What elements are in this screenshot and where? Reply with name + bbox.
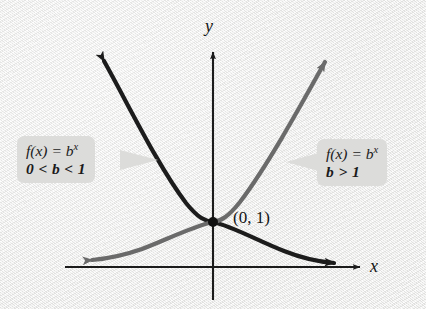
- callout-right-function: f(x) = bx: [326, 144, 378, 163]
- exponential-graph-figure: y x (0, 1) f(x) = bx 0 < b < 1 f(x) = bx…: [0, 0, 426, 309]
- callout-left-function-prefix: f(x) = b: [26, 142, 73, 159]
- callout-left-decreasing: f(x) = bx 0 < b < 1: [17, 136, 95, 183]
- callout-right-function-prefix: f(x) = b: [326, 145, 373, 162]
- callout-right-condition: b > 1: [326, 163, 378, 180]
- callout-right-increasing: f(x) = bx b > 1: [317, 139, 387, 186]
- callout-left-condition: 0 < b < 1: [26, 160, 86, 177]
- y-intercept-point: [208, 217, 218, 227]
- callout-right-function-exponent: x: [373, 144, 378, 155]
- x-axis-label: x: [370, 256, 378, 277]
- callout-left-function-exponent: x: [73, 141, 78, 152]
- callout-left-function: f(x) = bx: [26, 141, 86, 160]
- intercept-point-label: (0, 1): [233, 208, 270, 228]
- y-axis-label: y: [205, 16, 213, 37]
